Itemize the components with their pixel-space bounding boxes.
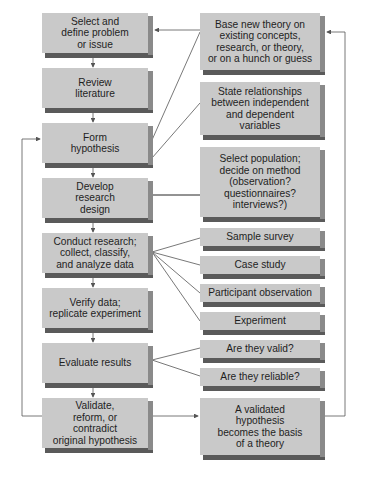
note-label: Base new theory on existing concepts, re… (208, 19, 312, 65)
method-case-study: Case study (200, 256, 320, 274)
step-label: Conduct research; collect, classify, and… (53, 236, 136, 271)
step-label: Validate, reform, or contradict original… (53, 400, 137, 446)
note-label: State relationships between independent … (211, 86, 308, 132)
method-experiment: Experiment (200, 312, 320, 330)
method-participant-observation: Participant observation (200, 284, 320, 302)
step-verify-data: Verify data; replicate experiment (42, 288, 148, 328)
question-label: Are they valid? (226, 343, 293, 355)
method-label: Case study (235, 259, 286, 271)
step-label: Review literature (75, 77, 115, 100)
step-label: Verify data; replicate experiment (49, 297, 141, 320)
question-reliable: Are they reliable? (200, 368, 320, 386)
method-label: Sample survey (226, 231, 293, 243)
step-validate-reform-contradict: Validate, reform, or contradict original… (42, 398, 148, 448)
step-select-define-problem: Select and define problem or issue (42, 13, 148, 53)
note-state-relationships: State relationships between independent … (200, 82, 320, 135)
step-label: Select and define problem or issue (61, 16, 128, 51)
question-label: Are they reliable? (220, 371, 299, 383)
step-label: Form hypothesis (71, 132, 120, 155)
note-validated-hypothesis: A validated hypothesis becomes the basis… (200, 398, 320, 455)
step-form-hypothesis: Form hypothesis (42, 123, 148, 163)
step-label: Evaluate results (59, 357, 131, 369)
note-label: Select population; decide on method (obs… (220, 153, 301, 211)
step-conduct-research: Conduct research; collect, classify, and… (42, 233, 148, 273)
step-develop-research-design: Develop research design (42, 178, 148, 218)
method-sample-survey: Sample survey (200, 228, 320, 246)
note-select-population: Select population; decide on method (obs… (200, 147, 320, 217)
question-valid: Are they valid? (200, 340, 320, 358)
method-label: Experiment (234, 315, 286, 327)
method-label: Participant observation (208, 287, 312, 299)
step-review-literature: Review literature (42, 68, 148, 108)
step-label: Develop research design (75, 181, 115, 216)
step-evaluate-results: Evaluate results (42, 343, 148, 383)
note-label: A validated hypothesis becomes the basis… (218, 404, 303, 450)
note-base-new-theory: Base new theory on existing concepts, re… (200, 13, 320, 70)
